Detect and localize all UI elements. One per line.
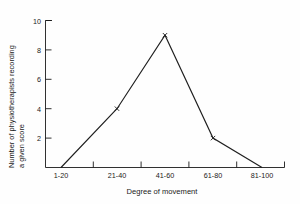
y-axis-title-line1: Number of physiotherapists recording <box>7 45 16 168</box>
y-axis-title-line2: a given score <box>17 124 26 168</box>
x-tick-label-1-20: 1-20 <box>54 171 68 180</box>
x-tick-label-21-40: 21-40 <box>108 171 126 180</box>
y-tick-label-2: 2 <box>37 134 41 143</box>
y-tick-label-4: 4 <box>37 105 41 114</box>
y-tick-label-10: 10 <box>33 17 41 26</box>
x-axis-title: Degree of movement <box>127 187 199 196</box>
x-tick-label-61-80: 61-80 <box>204 171 222 180</box>
y-tick-label-8: 8 <box>37 46 41 55</box>
line-chart: Number of physiotherapists recording a g… <box>0 0 300 204</box>
chart-figure: Number of physiotherapists recording a g… <box>0 0 300 204</box>
x-tick-label-41-60: 41-60 <box>156 171 174 180</box>
y-tick-label-6: 6 <box>37 75 41 84</box>
x-tick-label-81-100: 81-100 <box>251 171 273 180</box>
